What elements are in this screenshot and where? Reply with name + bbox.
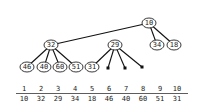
value-cell: 10 (20, 95, 28, 103)
node-label: 60 (56, 63, 64, 71)
node-label: 31 (88, 63, 96, 71)
index-cell: 5 (90, 85, 94, 93)
node-label: 29 (111, 41, 119, 49)
node-label: 10 (145, 19, 153, 27)
null-leaf-marker (107, 67, 110, 70)
array-table: 1234567891010322934184640605131 (16, 85, 188, 103)
tree-node: 32 (44, 40, 58, 50)
value-cell: 29 (54, 95, 62, 103)
node-label: 40 (40, 63, 48, 71)
tree-node: 34 (150, 40, 164, 50)
index-cell: 3 (56, 85, 60, 93)
tree-node: 51 (69, 62, 83, 72)
heap-tree-diagram: 10322934184640605131 1234567891010322934… (0, 0, 197, 110)
tree-node: 10 (142, 18, 156, 28)
value-cell: 34 (71, 95, 79, 103)
node-label: 51 (72, 63, 80, 71)
null-leaf-marker (141, 66, 144, 69)
value-cell: 40 (122, 95, 130, 103)
index-cell: 7 (124, 85, 128, 93)
tree-node: 18 (167, 40, 181, 50)
index-cell: 4 (73, 85, 77, 93)
tree-node: 31 (85, 62, 99, 72)
tree-edge (51, 23, 149, 45)
tree-node: 40 (37, 62, 51, 72)
value-cell: 18 (88, 95, 96, 103)
node-label: 46 (23, 63, 31, 71)
tree-nodes: 10322934184640605131 (20, 18, 181, 72)
index-cell: 1 (22, 85, 26, 93)
value-cell: 32 (37, 95, 45, 103)
value-cell: 60 (139, 95, 147, 103)
tree-node: 60 (53, 62, 67, 72)
tree-node: 46 (20, 62, 34, 72)
index-cell: 10 (173, 85, 181, 93)
index-cell: 9 (158, 85, 162, 93)
index-cell: 2 (39, 85, 43, 93)
index-cell: 6 (107, 85, 111, 93)
null-leaf-marker (124, 67, 127, 70)
value-cell: 51 (156, 95, 164, 103)
node-label: 18 (170, 41, 178, 49)
node-label: 34 (153, 41, 161, 49)
value-cell: 31 (173, 95, 181, 103)
tree-node: 29 (108, 40, 122, 50)
value-cell: 46 (105, 95, 113, 103)
node-label: 32 (47, 41, 55, 49)
index-cell: 8 (141, 85, 145, 93)
